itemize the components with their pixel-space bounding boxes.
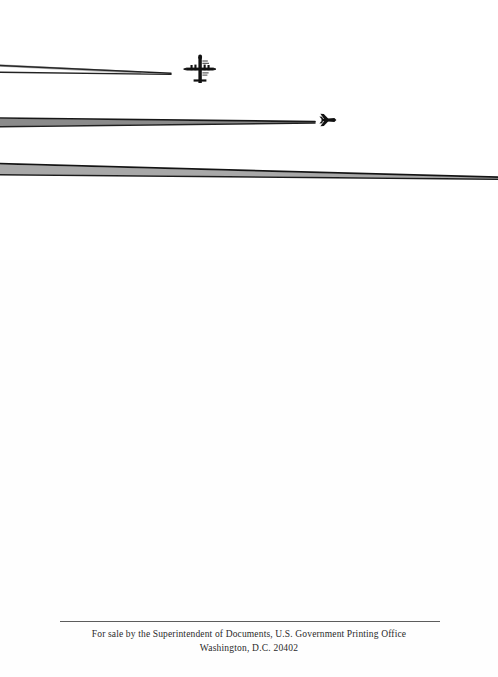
contrails-illustration [0,0,498,260]
aircraft-contrails-photograph [0,0,498,260]
document-page: For sale by the Superintendent of Docume… [0,0,498,677]
contrail-lower-group [0,164,498,180]
imprint-line-address: Washington, D.C. 20402 [0,641,498,655]
imprint-divider-rule [60,621,440,622]
four-engine-bomber-aircraft [184,55,217,83]
imprint-block: For sale by the Superintendent of Docume… [0,617,498,677]
contrail-upper-group [0,66,171,75]
contrail-upper-a-soft [0,66,140,73]
jet-aircraft [319,114,336,126]
contrail-middle-group [0,118,315,127]
imprint-text: For sale by the Superintendent of Docume… [0,627,498,655]
imprint-line-sale-notice: For sale by the Superintendent of Docume… [0,627,498,641]
